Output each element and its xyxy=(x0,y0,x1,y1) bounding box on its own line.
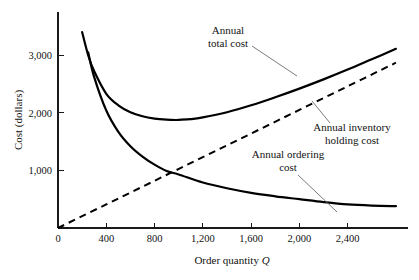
chart-canvas: 04008001,2001,6002,0002,400 1,0002,0003,… xyxy=(0,0,419,280)
x-tick-label: 0 xyxy=(55,233,60,244)
x-axis-ticks: 04008001,2001,6002,0002,400 xyxy=(55,223,359,244)
x-tick-label: 1,200 xyxy=(191,233,215,244)
x-tick-label: 800 xyxy=(147,233,163,244)
annotation-line: Annual inventory xyxy=(313,121,391,133)
annotation-annual-total-cost: Annualtotal cost xyxy=(208,24,248,49)
annotation-line: cost xyxy=(279,161,297,173)
y-tick-label: 1,000 xyxy=(28,165,52,176)
y-axis-ticks: 1,0002,0003,000 xyxy=(28,50,64,176)
eoq-cost-chart: 04008001,2001,6002,0002,400 1,0002,0003,… xyxy=(0,0,419,280)
y-tick-label: 3,000 xyxy=(28,50,52,61)
leader-line-annual-total-cost xyxy=(252,46,297,76)
x-axis-title-main: Order quantity xyxy=(194,254,261,266)
x-tick-label: 2,000 xyxy=(288,233,312,244)
y-axis-title: Cost (dollars) xyxy=(12,90,25,151)
annotation-annual-inventory-holding-cost: Annual inventoryholding cost xyxy=(313,121,391,146)
x-tick-label: 1,600 xyxy=(239,233,263,244)
x-axis-title: Order quantity Q xyxy=(194,254,269,266)
x-tick-label: 2,400 xyxy=(336,233,360,244)
annotation-line: total cost xyxy=(208,37,248,49)
annotation-annual-ordering-cost: Annual orderingcost xyxy=(252,148,325,173)
annotation-line: Annual ordering xyxy=(252,148,325,160)
annotation-line: Annual xyxy=(212,24,244,36)
curve-annotations: Annualtotal costAnnual inventoryholding … xyxy=(208,24,391,212)
annotation-line: holding cost xyxy=(325,134,379,146)
x-axis-title-symbol: Q xyxy=(262,254,270,266)
leader-line-annual-ordering-cost xyxy=(298,175,337,212)
leader-line-annual-inventory-holding-cost xyxy=(312,101,330,123)
y-tick-label: 2,000 xyxy=(28,108,52,119)
x-tick-label: 400 xyxy=(98,233,114,244)
